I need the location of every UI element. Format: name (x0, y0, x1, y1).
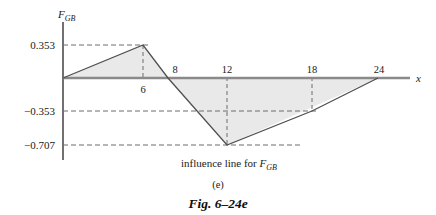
y-axis-label-sub: GB (65, 14, 76, 23)
x-tick-label-24: 24 (374, 64, 385, 75)
influence-line-chart: FGB x 0.353 −0.353 −0.707 6 8 12 18 24 i… (0, 0, 436, 215)
chart-caption: influence line for FGB (181, 157, 277, 172)
y-axis-label: FGB (57, 8, 76, 23)
chart-caption-symbol-sub: GB (266, 163, 277, 172)
x-tick-label-18: 18 (307, 64, 318, 75)
figure-number-label: Fig. 6–24e (187, 196, 247, 211)
x-axis-label: x (415, 72, 421, 84)
figure-container: FGB x 0.353 −0.353 −0.707 6 8 12 18 24 i… (0, 0, 436, 215)
y-tick-label-0353: 0.353 (30, 39, 55, 51)
y-tick-label-neg0707: −0.707 (24, 139, 55, 151)
subfigure-label: (e) (212, 179, 224, 191)
chart-caption-text: influence line for (181, 157, 260, 169)
y-tick-label-neg0353: −0.353 (24, 105, 55, 117)
positive-area-fill (63, 45, 168, 78)
chart-fill-region (63, 45, 378, 145)
x-tick-label-8: 8 (172, 64, 177, 75)
x-tick-label-12: 12 (222, 64, 233, 75)
x-tick-label-6: 6 (140, 84, 145, 95)
